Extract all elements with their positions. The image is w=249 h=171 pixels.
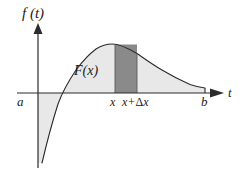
strip-left-label: x — [110, 96, 115, 108]
remaining-area-region — [137, 54, 205, 94]
delta-symbol-icon: Δ — [135, 95, 143, 109]
strip-right-label: x+Δx — [122, 96, 148, 108]
y-axis-arrowhead-icon — [34, 23, 43, 34]
x-axis-arrowhead-icon — [210, 89, 224, 98]
y-axis-label: f (t) — [22, 6, 44, 21]
x-axis-label: t — [228, 86, 232, 99]
figure-canvas — [0, 0, 249, 171]
area-function-label: F(x) — [74, 64, 98, 78]
strip-right-label-base: x+ — [122, 95, 135, 109]
lower-limit-label: a — [17, 95, 24, 108]
strip-right-label-var: x — [143, 95, 148, 109]
calculus-area-figure: f (t) a b t F(x) x x+Δx — [0, 0, 249, 171]
upper-limit-label: b — [201, 95, 208, 108]
